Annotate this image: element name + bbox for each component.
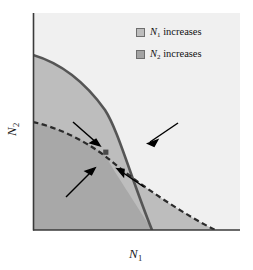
legend: N1 increases N2 increases	[136, 25, 241, 69]
x-axis-label-sub: 1	[138, 253, 142, 263]
legend-label-n1-sub: 1	[157, 31, 161, 39]
legend-label-n1: N1 increases	[150, 26, 202, 39]
legend-label-n2: N2 increases	[150, 48, 202, 61]
x-axis-label: N1	[129, 246, 142, 262]
figure-container: N2 N1 N1 increases N2 increases	[0, 0, 253, 270]
legend-item-n2: N2 increases	[136, 47, 241, 61]
equilibrium-point	[103, 150, 108, 155]
legend-label-n1-var: N	[150, 26, 157, 37]
y-axis-label: N2	[4, 123, 20, 136]
y-axis-label-sub: 2	[11, 123, 21, 127]
legend-swatch-n1	[136, 28, 145, 37]
legend-label-n1-text: increases	[161, 26, 202, 37]
legend-item-n1: N1 increases	[136, 25, 241, 39]
legend-label-n2-var: N	[150, 48, 157, 59]
legend-label-n2-text: increases	[161, 48, 202, 59]
x-axis-label-var: N	[129, 246, 138, 261]
legend-label-n2-sub: 2	[157, 53, 161, 61]
legend-swatch-n2	[136, 50, 145, 59]
y-axis-label-var: N	[4, 127, 19, 136]
